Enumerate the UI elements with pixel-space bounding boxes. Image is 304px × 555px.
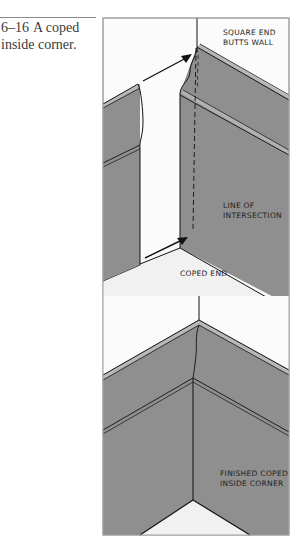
label-square-end-line1: SQUARE END: [223, 28, 276, 37]
label-finished-line1: FINISHED COPED: [220, 469, 288, 478]
label-finished-line2: INSIDE CORNER: [220, 479, 284, 488]
label-finished-coped: FINISHED COPED INSIDE CORNER: [220, 469, 288, 489]
label-line-of-intersection: LINE OF INTERSECTION: [223, 201, 282, 221]
label-square-end: SQUARE END BUTTS WALL: [223, 28, 276, 48]
label-square-end-line2: BUTTS WALL: [223, 38, 273, 47]
label-line-of-line1: LINE OF: [223, 201, 254, 210]
label-line-of-line2: INTERSECTION: [223, 211, 282, 220]
label-coped-end: COPED END: [180, 269, 227, 279]
label-coped-end-text: COPED END: [180, 269, 227, 278]
coped-moulding: [103, 84, 140, 281]
